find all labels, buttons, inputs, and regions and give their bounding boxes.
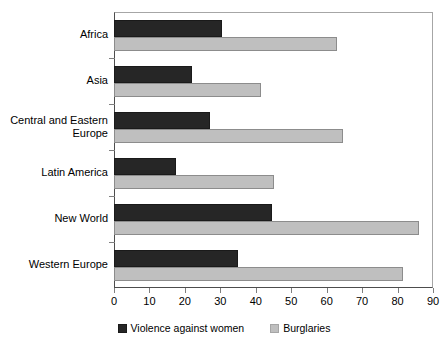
bar-chart: AfricaAsiaCentral and Eastern EuropeLati…	[0, 0, 448, 345]
y-axis-tick	[109, 196, 115, 197]
bar-violence-against-women-asia	[114, 66, 192, 83]
legend-swatch-icon	[270, 324, 279, 333]
x-axis-tick-label: 30	[205, 295, 235, 307]
x-axis-tick-label: 0	[99, 295, 129, 307]
x-axis-tick	[220, 288, 221, 293]
chart-legend: Violence against womenBurglaries	[0, 322, 448, 334]
x-axis-tick	[327, 288, 328, 293]
bar-violence-against-women-central-and-eastern-europe	[114, 112, 210, 129]
x-axis-tick-label: 70	[347, 295, 377, 307]
y-axis-tick	[109, 58, 115, 59]
plot-area	[114, 12, 433, 288]
x-axis-tick	[256, 288, 257, 293]
legend-item[interactable]: Violence against women	[118, 322, 245, 334]
x-axis-tick	[149, 288, 150, 293]
x-axis-tick-label: 90	[418, 295, 448, 307]
category-label: Latin America	[4, 166, 108, 179]
x-axis-tick	[114, 288, 115, 293]
bar-violence-against-women-western-europe	[114, 250, 238, 267]
bar-violence-against-women-latin-america	[114, 158, 176, 175]
x-axis-tick	[398, 288, 399, 293]
bar-burglaries-western-europe	[114, 267, 403, 281]
category-label: Western Europe	[4, 258, 108, 271]
x-axis-tick-label: 60	[312, 295, 342, 307]
x-axis-tick-label: 80	[383, 295, 413, 307]
legend-item[interactable]: Burglaries	[270, 322, 330, 334]
legend-swatch-icon	[118, 324, 127, 333]
y-axis-tick	[109, 150, 115, 151]
x-axis-tick	[185, 288, 186, 293]
legend-label: Violence against women	[131, 322, 245, 334]
category-label: Central and Eastern Europe	[4, 114, 108, 139]
x-axis-tick-label: 10	[134, 295, 164, 307]
x-axis-tick-label: 40	[241, 295, 271, 307]
bar-burglaries-latin-america	[114, 175, 274, 189]
bar-burglaries-new-world	[114, 221, 419, 235]
y-axis-tick	[109, 242, 115, 243]
bar-burglaries-asia	[114, 83, 261, 97]
category-label: Asia	[4, 74, 108, 87]
bar-burglaries-central-and-eastern-europe	[114, 129, 343, 143]
category-label: New World	[4, 212, 108, 225]
x-axis-tick	[291, 288, 292, 293]
y-axis-tick	[109, 104, 115, 105]
bar-violence-against-women-africa	[114, 20, 222, 37]
x-axis-tick	[433, 288, 434, 293]
legend-label: Burglaries	[283, 322, 330, 334]
bar-burglaries-africa	[114, 37, 337, 51]
bar-violence-against-women-new-world	[114, 204, 272, 221]
category-label: Africa	[4, 28, 108, 41]
x-axis-tick-label: 50	[276, 295, 306, 307]
x-axis-tick-label: 20	[170, 295, 200, 307]
x-axis-tick	[362, 288, 363, 293]
